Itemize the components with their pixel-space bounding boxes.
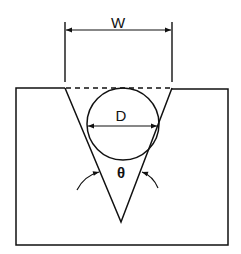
- angle-arrow-left: [77, 172, 99, 190]
- label-theta: θ: [117, 164, 125, 181]
- label-d: D: [116, 107, 127, 124]
- angle-arrow-right: [142, 172, 158, 188]
- v-groove-diagram: W D θ: [0, 0, 241, 254]
- ball-circle: [87, 88, 159, 160]
- label-w: W: [111, 14, 126, 31]
